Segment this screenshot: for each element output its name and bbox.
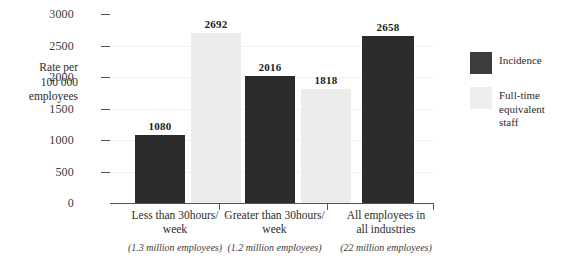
bar-incidence-all-employees: 2658 <box>362 36 414 203</box>
y-axis-tick-labels: 3000 2500 2000 1500 1000 500 0 <box>0 0 110 262</box>
bar-fte-less-than-30h: 2692 <box>191 33 241 203</box>
y-tick-label-2500: 2500 <box>49 38 74 53</box>
legend-item-incidence: Incidence <box>470 52 562 74</box>
legend-swatch-incidence <box>470 52 492 74</box>
bar-value-label: 1080 <box>149 120 172 132</box>
bar-value-label: 2658 <box>377 21 400 33</box>
x-category-sublabel: (1.2 million employees) <box>217 241 332 255</box>
y-tick-label-2000: 2000 <box>49 70 74 85</box>
bar-value-label: 1818 <box>315 74 338 86</box>
y-tick-label-1500: 1500 <box>49 101 74 116</box>
legend-swatch-fte <box>470 87 492 109</box>
bar-fte-greater-than-30h: 1818 <box>301 89 351 204</box>
y-axis-tick-3000 <box>101 14 110 15</box>
bar-chart: Rate per 100 000 employees 3000 2500 200… <box>0 0 562 262</box>
x-category-less-than-30h: Less than 30hours/ week (1.3 million emp… <box>120 208 230 255</box>
x-category-line-1: Greater than 30hours/ <box>224 209 324 221</box>
x-category-all-employees: All employees in all industries (22 mill… <box>331 208 441 255</box>
legend-label-fte: Full-time equivalent staff <box>499 87 562 130</box>
x-category-line-2: week <box>163 223 187 235</box>
x-category-line-2: week <box>262 223 286 235</box>
bar-incidence-greater-than-30h: 2016 <box>245 76 295 203</box>
x-category-sublabel: (1.3 million employees) <box>120 241 230 255</box>
legend: Incidence Full-time equivalent staff <box>470 52 562 143</box>
x-category-greater-than-30h: Greater than 30hours/ week (1.2 million … <box>217 208 332 255</box>
y-tick-label-500: 500 <box>55 164 74 179</box>
y-tick-label-1000: 1000 <box>49 133 74 148</box>
y-axis-tick-500 <box>101 172 110 173</box>
plot-area: 1080 2692 2016 1818 2658 <box>110 14 434 203</box>
x-category-sublabel: (22 million employees) <box>331 241 441 255</box>
bar-incidence-less-than-30h: 1080 <box>135 135 185 203</box>
x-category-line-1: Less than 30hours/ <box>132 209 219 221</box>
x-category-line-1: All employees in <box>347 209 426 221</box>
bar-value-label: 2016 <box>259 61 282 73</box>
y-tick-label-3000: 3000 <box>49 7 74 22</box>
bar-value-label: 2692 <box>205 18 228 30</box>
y-axis-tick-2500 <box>101 46 110 47</box>
legend-item-fte: Full-time equivalent staff <box>470 87 562 130</box>
top-crop-artifact <box>138 0 148 5</box>
y-axis-tick-1500 <box>101 109 110 110</box>
y-axis-tick-2000 <box>101 77 110 78</box>
y-tick-label-0: 0 <box>68 196 74 211</box>
x-category-line-2: all industries <box>356 223 415 235</box>
legend-label-incidence: Incidence <box>499 52 542 68</box>
y-axis-tick-1000 <box>101 140 110 141</box>
